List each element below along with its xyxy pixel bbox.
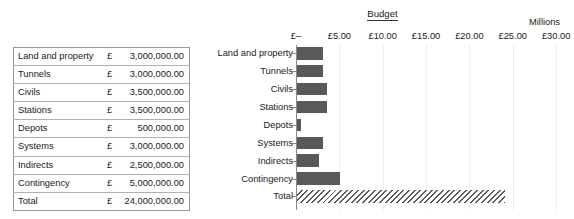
table-cell-category: Systems	[14, 138, 103, 156]
table-cell-category: Contingency	[14, 174, 103, 192]
chart-bar	[297, 47, 323, 60]
chart-plot-area: Land and propertyTunnelsCivilsStationsDe…	[191, 45, 574, 210]
table-cell-currency-symbol: £	[103, 66, 117, 84]
x-axis-tick-labels: £–£5.00£10.00£15.00£20.00£25.00£30.00	[191, 31, 574, 43]
x-axis-tick-label: £–	[291, 31, 301, 41]
table-cell-category: Indirects	[14, 156, 103, 174]
chart-units-label: Millions	[529, 17, 560, 27]
table-row: Civils£3,500,000.00	[14, 84, 190, 102]
chart-bar-row: Depots	[191, 119, 574, 137]
table-cell-amount: 2,500,000.00	[117, 156, 190, 174]
bar-category-label: Stations	[191, 102, 293, 112]
table-cell-category: Tunnels	[14, 66, 103, 84]
chart-bar	[297, 154, 319, 167]
table-cell-currency-symbol: £	[103, 102, 117, 120]
table-cell-currency-symbol: £	[103, 138, 117, 156]
budget-screenshot: Land and property£3,000,000.00Tunnels£3,…	[0, 0, 574, 219]
x-axis-tick-label: £30.00	[542, 31, 570, 41]
chart-bar	[297, 101, 327, 114]
x-axis-tick-label: £10.00	[368, 31, 396, 41]
chart-bar-row: Systems	[191, 137, 574, 155]
table-cell-category: Civils	[14, 84, 103, 102]
table-cell-currency-symbol: £	[103, 84, 117, 102]
bar-category-label: Total	[191, 191, 293, 201]
chart-bar-row: Tunnels	[191, 65, 574, 83]
chart-bar-row: Civils	[191, 83, 574, 101]
table-cell-category: Total	[14, 192, 103, 210]
table-row: Depots£500,000.00	[14, 120, 190, 138]
table-cell-category: Land and property	[14, 48, 103, 66]
table-cell-amount: 3,000,000.00	[117, 48, 190, 66]
chart-bar	[297, 172, 340, 185]
table-cell-currency-symbol: £	[103, 156, 117, 174]
bar-category-label: Civils	[191, 84, 293, 94]
chart-bar	[297, 137, 323, 150]
table-row: Land and property£3,000,000.00	[14, 48, 190, 66]
table-cell-currency-symbol: £	[103, 48, 117, 66]
bar-category-label: Tunnels	[191, 66, 293, 76]
chart-bar	[297, 119, 301, 132]
x-axis-tick-label: £20.00	[455, 31, 483, 41]
chart-bar-row: Contingency	[191, 172, 574, 190]
bar-category-label: Indirects	[191, 156, 293, 166]
chart-bar-row: Indirects	[191, 154, 574, 172]
x-axis-tick-label: £25.00	[499, 31, 527, 41]
bar-category-label: Land and property	[191, 48, 293, 58]
table-cell-amount: 3,500,000.00	[117, 102, 190, 120]
chart-title: Budget	[191, 8, 574, 19]
bar-category-label: Depots	[191, 120, 293, 130]
chart-bar-row: Land and property	[191, 47, 574, 65]
table-cell-amount: 500,000.00	[117, 120, 190, 138]
table-row: Indirects£2,500,000.00	[14, 156, 190, 174]
chart-bar	[297, 65, 323, 78]
bar-category-label: Systems	[191, 138, 293, 148]
chart-bar	[297, 190, 505, 203]
chart-bar	[297, 83, 327, 96]
budget-table-body: Land and property£3,000,000.00Tunnels£3,…	[14, 48, 190, 211]
bar-category-label: Contingency	[191, 174, 293, 184]
table-row: Stations£3,500,000.00	[14, 102, 190, 120]
budget-bar-chart: Budget Millions £–£5.00£10.00£15.00£20.0…	[191, 0, 574, 219]
chart-title-text: Budget	[367, 8, 397, 21]
table-cell-amount: 24,000,000.00	[117, 192, 190, 210]
x-axis-tick-label: £5.00	[328, 31, 351, 41]
table-cell-amount: 3,500,000.00	[117, 84, 190, 102]
chart-bar-row: Total	[191, 190, 574, 208]
table-cell-category: Stations	[14, 102, 103, 120]
table-cell-category: Depots	[14, 120, 103, 138]
table-cell-currency-symbol: £	[103, 120, 117, 138]
chart-bar-row: Stations	[191, 101, 574, 119]
table-cell-amount: 5,000,000.00	[117, 174, 190, 192]
table-row: Systems£3,000,000.00	[14, 138, 190, 156]
table-cell-currency-symbol: £	[103, 192, 117, 210]
table-cell-currency-symbol: £	[103, 174, 117, 192]
x-axis-tick-label: £15.00	[412, 31, 440, 41]
table-row: Tunnels£3,000,000.00	[14, 66, 190, 84]
budget-table: Land and property£3,000,000.00Tunnels£3,…	[13, 47, 190, 211]
table-row: Contingency£5,000,000.00	[14, 174, 190, 192]
table-row: Total£24,000,000.00	[14, 192, 190, 210]
table-cell-amount: 3,000,000.00	[117, 138, 190, 156]
table-cell-amount: 3,000,000.00	[117, 66, 190, 84]
